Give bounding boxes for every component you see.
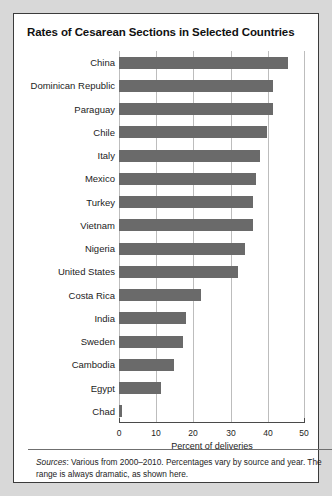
bar <box>119 57 288 69</box>
bar-row: Nigeria <box>14 237 318 260</box>
bar <box>119 196 253 208</box>
bar <box>119 312 186 324</box>
category-label: Costa Rica <box>14 284 115 307</box>
bar <box>119 126 267 138</box>
figure-page: Rates of Cesarean Sections in Selected C… <box>0 0 332 496</box>
x-axis-tick-labels: 0 10 20 30 40 50 <box>119 428 305 442</box>
category-label: Dominican Republic <box>14 74 115 97</box>
bar-row: China <box>14 51 318 74</box>
x-tick-label: 40 <box>263 428 272 438</box>
bar-row: Egypt <box>14 377 318 400</box>
figure-box: Rates of Cesarean Sections in Selected C… <box>13 13 319 483</box>
bar <box>119 243 245 255</box>
bar-row: Chad <box>14 400 318 423</box>
category-label: Nigeria <box>14 237 115 260</box>
category-label: Italy <box>14 144 115 167</box>
bar-row: Sweden <box>14 330 318 353</box>
bar-row: Vietnam <box>14 214 318 237</box>
bar <box>119 150 260 162</box>
x-tick-label: 20 <box>188 428 197 438</box>
source-label: Sources <box>36 457 66 467</box>
bar <box>119 173 256 185</box>
source-text: Various from 2000–2010. Percentages vary… <box>36 457 322 479</box>
bar <box>119 80 273 92</box>
category-label: Chile <box>14 121 115 144</box>
bar <box>119 405 122 417</box>
source-note: Sources: Various from 2000–2010. Percent… <box>36 457 326 480</box>
category-label: Cambodia <box>14 353 115 376</box>
bar-chart: China Dominican Republic Paraguay Chile … <box>14 47 318 437</box>
category-label: Paraguay <box>14 98 115 121</box>
category-label: Vietnam <box>14 214 115 237</box>
bar-row: India <box>14 307 318 330</box>
bar <box>119 219 253 231</box>
category-label: China <box>14 51 115 74</box>
bar-row: Mexico <box>14 167 318 190</box>
category-label: Sweden <box>14 330 115 353</box>
bar <box>119 359 174 371</box>
x-tick-label: 50 <box>299 428 308 438</box>
bar-row: Cambodia <box>14 353 318 376</box>
category-label: Turkey <box>14 191 115 214</box>
bar-row: Costa Rica <box>14 284 318 307</box>
x-tick-label: 0 <box>117 428 122 438</box>
bar <box>119 266 238 278</box>
category-label: India <box>14 307 115 330</box>
category-label: Chad <box>14 400 115 423</box>
bar-row: Chile <box>14 121 318 144</box>
bar-row: United States <box>14 260 318 283</box>
bar <box>119 103 273 115</box>
x-tick-label: 10 <box>151 428 160 438</box>
page-title: Rates of Cesarean Sections in Selected C… <box>27 26 294 38</box>
category-label: Egypt <box>14 377 115 400</box>
bar-rows: China Dominican Republic Paraguay Chile … <box>14 47 318 437</box>
category-label: Mexico <box>14 167 115 190</box>
category-label: United States <box>14 260 115 283</box>
bar <box>119 382 161 394</box>
bar-row: Turkey <box>14 191 318 214</box>
bar <box>119 336 183 348</box>
bar-row: Paraguay <box>14 98 318 121</box>
footnote-divider <box>28 449 332 450</box>
x-tick-label: 30 <box>226 428 235 438</box>
bar-row: Dominican Republic <box>14 74 318 97</box>
bar <box>119 289 201 301</box>
bar-row: Italy <box>14 144 318 167</box>
